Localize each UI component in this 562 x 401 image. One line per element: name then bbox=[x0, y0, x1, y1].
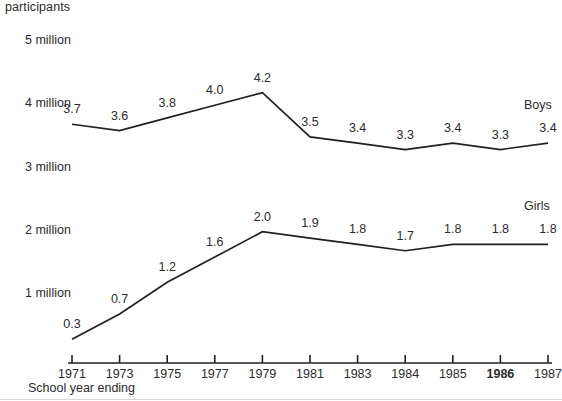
x-tick-label-1986: 1986 bbox=[486, 367, 514, 381]
data-label-girls-1986: 1.8 bbox=[492, 222, 509, 236]
data-label-girls-1981: 1.9 bbox=[301, 216, 318, 230]
data-label-girls-1977: 1.6 bbox=[206, 235, 223, 249]
data-label-boys-1986: 3.3 bbox=[492, 128, 509, 142]
data-label-boys-1985: 3.4 bbox=[444, 121, 461, 135]
data-label-girls-1983: 1.8 bbox=[349, 222, 366, 236]
data-label-girls-1984: 1.7 bbox=[396, 229, 413, 243]
chart-container: participants 5 million 4 million 3 milli… bbox=[0, 0, 562, 401]
x-axis-caption: School year ending bbox=[28, 381, 135, 395]
x-tick-label-1979: 1979 bbox=[248, 367, 276, 381]
data-label-girls-1987: 1.8 bbox=[539, 222, 556, 236]
x-tick-label-1975: 1975 bbox=[153, 367, 181, 381]
x-tick-label-1985: 1985 bbox=[439, 367, 467, 381]
x-tick-label-1987: 1987 bbox=[534, 367, 562, 381]
series-label-boys: Boys bbox=[524, 98, 552, 112]
data-label-girls-1985: 1.8 bbox=[444, 222, 461, 236]
plot-area bbox=[0, 0, 562, 401]
data-label-boys-1975: 3.8 bbox=[158, 96, 175, 110]
x-tick-label-1981: 1981 bbox=[296, 367, 324, 381]
data-label-girls-1971: 0.3 bbox=[63, 317, 80, 331]
data-label-girls-1975: 1.2 bbox=[158, 260, 175, 274]
series-line-girls bbox=[72, 232, 548, 340]
data-label-girls-1973: 0.7 bbox=[111, 292, 128, 306]
x-tick-label-1984: 1984 bbox=[391, 367, 419, 381]
data-label-boys-1971: 3.7 bbox=[63, 102, 80, 116]
data-label-boys-1981: 3.5 bbox=[301, 115, 318, 129]
data-label-boys-1979: 4.2 bbox=[254, 71, 271, 85]
data-label-boys-1983: 3.4 bbox=[349, 121, 366, 135]
series-label-girls: Girls bbox=[524, 199, 550, 213]
data-label-girls-1979: 2.0 bbox=[254, 210, 271, 224]
x-tick-label-1977: 1977 bbox=[201, 367, 229, 381]
x-tick-label-1983: 1983 bbox=[344, 367, 372, 381]
data-label-boys-1973: 3.6 bbox=[111, 109, 128, 123]
x-tick-label-1973: 1973 bbox=[106, 367, 134, 381]
bottom-divider bbox=[0, 399, 562, 400]
data-label-boys-1987: 3.4 bbox=[539, 121, 556, 135]
data-label-boys-1977: 4.0 bbox=[206, 83, 223, 97]
data-label-boys-1984: 3.3 bbox=[396, 128, 413, 142]
x-tick-label-1971: 1971 bbox=[58, 367, 86, 381]
